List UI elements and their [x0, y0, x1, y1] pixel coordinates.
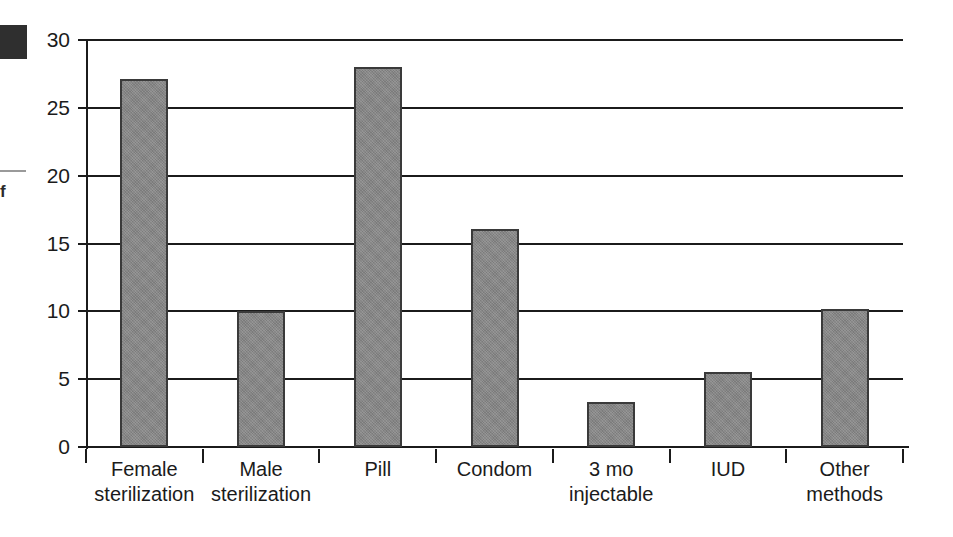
x-axis-label-male-sterilization: Malesterilization — [197, 457, 326, 507]
x-axis-label-line: Pill — [313, 457, 442, 482]
y-axis-line — [86, 40, 88, 449]
x-axis-label-line: Condom — [430, 457, 559, 482]
gridline-30 — [86, 39, 903, 41]
bar-female-sterilization[interactable] — [120, 79, 168, 447]
y-axis-label-5: 5 — [26, 368, 70, 389]
x-axis-label-line: Male — [197, 457, 326, 482]
y-axis-label-15: 15 — [26, 233, 70, 254]
bar-other-methods[interactable] — [821, 309, 869, 447]
x-axis-label-pill: Pill — [313, 457, 442, 482]
x-axis-label-3-mo-injectable: 3 moinjectable — [547, 457, 676, 507]
y-tick-10 — [78, 310, 87, 312]
x-axis-label-condom: Condom — [430, 457, 559, 482]
y-axis-label-20: 20 — [26, 165, 70, 186]
y-axis-label-0: 0 — [26, 436, 70, 457]
y-tick-25 — [78, 107, 87, 109]
bar-condom[interactable] — [471, 229, 519, 447]
bar-iud[interactable] — [704, 372, 752, 447]
bar-3-mo-injectable[interactable] — [587, 402, 635, 447]
x-axis-label-line: Other — [780, 457, 909, 482]
x-axis-label-line: IUD — [664, 457, 793, 482]
gridline-25 — [86, 107, 903, 109]
x-axis-label-line: sterilization — [197, 482, 326, 507]
y-tick-15 — [78, 243, 87, 245]
x-axis-label-iud: IUD — [664, 457, 793, 482]
x-axis-label-line: 3 mo — [547, 457, 676, 482]
y-tick-20 — [78, 175, 87, 177]
x-axis-label-line: Female — [80, 457, 209, 482]
y-tick-5 — [78, 378, 87, 380]
x-axis-label-female-sterilization: Femalesterilization — [80, 457, 209, 507]
bar-male-sterilization[interactable] — [237, 311, 285, 447]
y-tick-30 — [78, 39, 87, 41]
y-tick-0 — [78, 446, 87, 448]
y-axis-label-10: 10 — [26, 300, 70, 321]
x-axis-label-line: injectable — [547, 482, 676, 507]
x-axis-label-line: methods — [780, 482, 909, 507]
bar-pill[interactable] — [354, 67, 402, 447]
gridline-20 — [86, 175, 903, 177]
chart-page: f 051015202530 FemalesterilizationMalest… — [0, 0, 953, 537]
y-axis-label-30: 30 — [26, 29, 70, 50]
y-axis-label-25: 25 — [26, 97, 70, 118]
x-axis-label-other-methods: Othermethods — [780, 457, 909, 507]
x-axis-label-line: sterilization — [80, 482, 209, 507]
bar-chart: 051015202530 FemalesterilizationMalester… — [0, 0, 953, 537]
